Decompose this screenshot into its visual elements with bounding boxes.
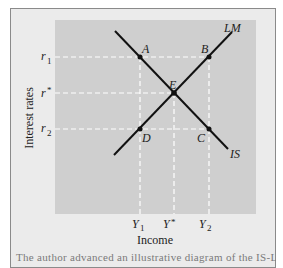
plot-area [55,20,256,214]
figure-caption: The author advanced an illustrative diag… [16,251,276,263]
label-d: D [141,131,151,145]
svg-text:2: 2 [47,128,52,138]
svg-text:1: 1 [140,223,145,233]
svg-text:r: r [41,49,46,63]
x-tick-ystar: Y * [163,217,176,231]
svg-text:Y: Y [163,217,171,231]
x-axis-title: Income [137,233,173,247]
svg-text:Y: Y [132,217,140,231]
y-tick-r1: r 1 [41,49,52,66]
label-a: A [141,42,150,56]
lm-label: LM [223,21,242,35]
y-axis-title: Interest rates [22,87,36,149]
y-tick-r2: r 2 [41,121,52,138]
svg-text:r: r [41,86,46,100]
svg-text:*: * [47,85,52,95]
svg-text:1: 1 [47,56,52,66]
x-tick-y2: Y 2 [199,217,212,233]
x-tick-y1: Y 1 [132,217,145,233]
is-label: IS [229,147,240,161]
caption-strip: The author advanced an illustrative diag… [10,248,276,263]
svg-text:Y: Y [199,217,207,231]
label-b: B [201,42,209,56]
label-c: C [197,131,206,145]
svg-text:*: * [171,217,176,227]
label-e: E [168,78,177,92]
point-c [207,127,212,132]
y-tick-rstar: r * [41,85,52,100]
svg-text:r: r [41,121,46,135]
svg-text:2: 2 [207,223,212,233]
